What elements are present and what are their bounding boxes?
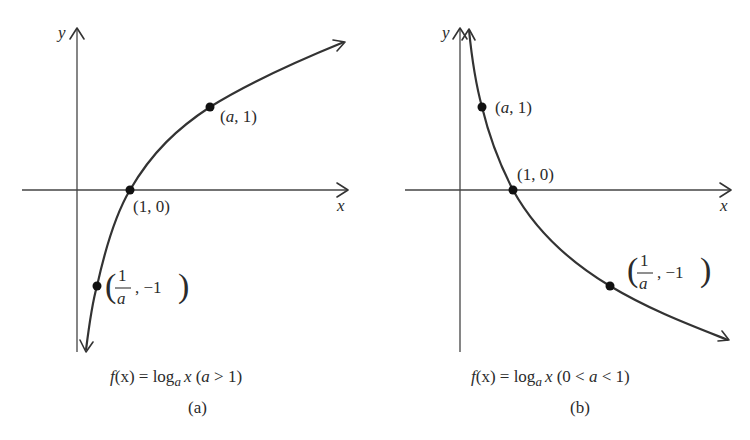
panel-a: y x (a, 1) (1, 0) ( 1 a , −1 ) f(x) = lo… [22,23,348,417]
y-axis-label: y [56,23,66,42]
sublabel-b: (b) [570,398,590,417]
label-1-over-a-neg1: ( 1 a , −1 ) [105,266,189,308]
x-axis-label: x [336,196,345,215]
label-1-0: (1, 0) [133,197,170,216]
fraction-numerator: 1 [118,266,127,285]
left-paren: ( [627,251,638,289]
fraction-denominator: a [117,289,126,308]
label-1-0: (1, 0) [517,165,554,184]
x-axis-label: x [719,196,728,215]
right-paren: ) [700,251,711,289]
label-1-over-a-neg1: ( 1 a , −1 ) [627,251,711,293]
logarithm-graphs-figure: y x (a, 1) (1, 0) ( 1 a , −1 ) f(x) = lo… [0,0,750,440]
sublabel-a: (a) [188,398,207,417]
point-a-1 [206,103,215,112]
point-a-1 [478,103,487,112]
y-axis-label: y [440,23,450,42]
label-a-1: (a, 1) [495,98,532,117]
point-1-0 [509,186,518,195]
left-paren: ( [105,267,116,305]
fraction-denominator: a [639,274,648,293]
point-1-0 [126,186,135,195]
point-1-over-a-neg1 [93,282,102,291]
label-a-1: (a, 1) [220,107,257,126]
caption-b: f(x) = logax (0 < a < 1) [471,367,630,389]
label-tail: , −1 [657,263,684,282]
label-tail: , −1 [135,278,162,297]
point-1-over-a-neg1 [606,282,615,291]
caption-a: f(x) = logax (a > 1) [110,367,242,389]
panel-b: y x (a, 1) (1, 0) ( 1 a , −1 ) f(x) = lo… [405,23,731,417]
fraction-numerator: 1 [640,251,649,270]
right-paren: ) [178,267,189,305]
log-curve-decreasing [469,30,728,340]
